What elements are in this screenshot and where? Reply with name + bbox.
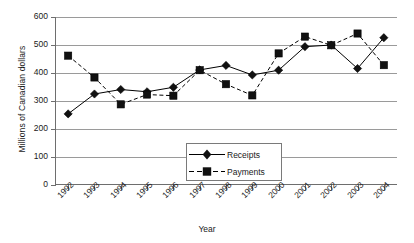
gridline bbox=[56, 17, 397, 18]
y-tick-label: 300 bbox=[20, 95, 48, 105]
legend-marker-square-icon bbox=[187, 163, 227, 180]
gridline bbox=[56, 45, 397, 46]
gridline bbox=[56, 129, 397, 130]
legend-marker-diamond-icon bbox=[187, 146, 227, 163]
legend-label-receipts: Receipts bbox=[227, 150, 260, 160]
y-tick-label: 400 bbox=[20, 67, 48, 77]
y-tick-label: 200 bbox=[20, 123, 48, 133]
chart-legend: Receipts Payments bbox=[186, 143, 282, 181]
gridline bbox=[56, 101, 397, 102]
gridline bbox=[56, 73, 397, 74]
y-tick-label: 0 bbox=[20, 179, 48, 189]
legend-item-payments[interactable]: Payments bbox=[187, 163, 283, 180]
y-tick-label: 600 bbox=[20, 11, 48, 21]
y-tick-label: 500 bbox=[20, 39, 48, 49]
line-chart: Millions of Canadian dollars 01002003004… bbox=[0, 0, 414, 243]
legend-label-payments: Payments bbox=[227, 167, 265, 177]
legend-item-receipts[interactable]: Receipts bbox=[187, 146, 283, 163]
y-tick-mark bbox=[51, 185, 56, 186]
y-tick-label: 100 bbox=[20, 151, 48, 161]
x-axis-title: Year bbox=[0, 224, 414, 234]
